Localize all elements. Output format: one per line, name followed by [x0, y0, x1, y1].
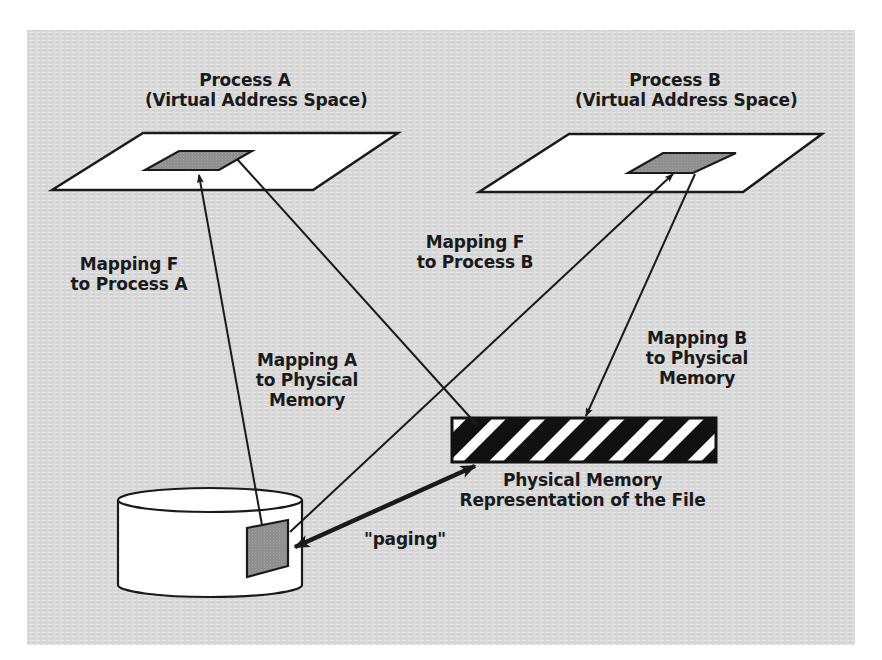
label-line: Physical Memory	[450, 470, 715, 490]
label-line: Mapping F	[410, 232, 540, 252]
label-line: Representation of the File	[450, 490, 715, 510]
label-line: Memory	[247, 390, 367, 410]
label-line: to Physical	[247, 370, 367, 390]
process-a-subtitle: (Virtual Address Space)	[145, 90, 345, 110]
label-mapping-a-to-physical: Mapping A to Physical Memory	[247, 350, 367, 410]
label-paging: "paging"	[360, 529, 450, 549]
disk-file-region	[247, 520, 288, 577]
label-physical-memory: Physical Memory Representation of the Fi…	[450, 470, 715, 510]
label-mapping-b-to-physical: Mapping B to Physical Memory	[637, 328, 757, 388]
process-a-title-line: Process A	[145, 70, 345, 90]
label-line: Mapping B	[637, 328, 757, 348]
label-line: to Physical	[637, 348, 757, 368]
process-a-title: Process A (Virtual Address Space)	[145, 70, 345, 110]
physical-memory-bar	[452, 418, 716, 462]
label-line: to Process A	[63, 274, 195, 294]
label-line: "paging"	[360, 529, 450, 549]
process-b-subtitle: (Virtual Address Space)	[575, 90, 775, 110]
label-line: to Process B	[410, 252, 540, 272]
process-b-title: Process B (Virtual Address Space)	[575, 70, 775, 110]
label-mapping-f-to-process-b: Mapping F to Process B	[410, 232, 540, 272]
label-mapping-f-to-process-a: Mapping F to Process A	[63, 254, 195, 294]
process-b-title-line: Process B	[575, 70, 775, 90]
label-line: Mapping A	[247, 350, 367, 370]
disk-cylinder	[118, 488, 302, 597]
label-line: Mapping F	[63, 254, 195, 274]
label-line: Memory	[637, 368, 757, 388]
